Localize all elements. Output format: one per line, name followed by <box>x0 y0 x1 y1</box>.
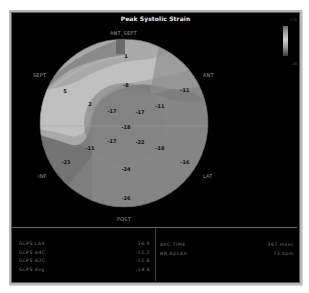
label-lat: LAT <box>203 173 213 179</box>
stat-row: GLPS A4C -11.2 <box>19 250 150 259</box>
label-ant-sept: ANT_SEPT <box>110 30 137 36</box>
stat-row: GLPS Avg -14.4 <box>19 267 150 276</box>
glps-stats-panel: GLPS LAX -16.9 GLPS A4C -11.2 GLPS A2C -… <box>19 241 150 275</box>
segment-value: -23 <box>61 159 70 165</box>
segment-value: -16 <box>180 159 189 165</box>
segment-value: 2 <box>88 101 91 107</box>
segment-value: -11 <box>155 103 164 109</box>
timing-stats-panel: AVC TIME 367 msec HR ApLAX 73 bpm <box>160 242 294 259</box>
label-post: POST <box>117 216 131 222</box>
segment-value: -17 <box>135 109 144 115</box>
segment-value: -11 <box>85 145 94 151</box>
segment-value: -8 <box>123 82 129 88</box>
stats-column-divider <box>155 228 156 281</box>
segment-value: 1 <box>124 53 127 59</box>
label-inf: INF <box>38 173 47 179</box>
segment-value: -24 <box>121 166 130 172</box>
segment-value: -11 <box>180 87 189 93</box>
segment-value: 5 <box>63 88 66 94</box>
label-ant: ANT <box>203 72 214 78</box>
segment-value: -18 <box>155 145 164 151</box>
label-sept: SEPT <box>33 72 46 78</box>
bullseye-plot <box>0 0 309 240</box>
stat-row: HR ApLAX 73 bpm <box>160 251 294 260</box>
stat-row: AVC TIME 367 msec <box>160 242 294 251</box>
segment-value: -22 <box>135 139 144 145</box>
segment-value: -18 <box>121 124 130 130</box>
stat-row: GLPS A2C -11.6 <box>19 258 150 267</box>
segment-value: -26 <box>121 195 130 201</box>
segment-value: -17 <box>107 138 116 144</box>
segment-value: -17 <box>107 108 116 114</box>
stat-row: GLPS LAX -16.9 <box>19 241 150 250</box>
